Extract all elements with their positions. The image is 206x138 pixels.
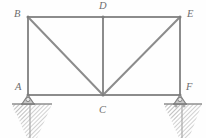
ground-hatching-right: [164, 104, 202, 138]
truss-members-group: [28, 17, 180, 95]
node-label-C: C: [99, 105, 106, 116]
member-diagonal-B-C: [28, 17, 103, 95]
node-label-A: A: [15, 82, 22, 93]
pin-support-A: [21, 95, 35, 104]
joint-E: [179, 16, 182, 19]
joint-B: [27, 16, 30, 19]
joint-C: [102, 94, 105, 97]
roller-support-F-hinge: [178, 97, 182, 101]
node-label-F: F: [186, 82, 193, 93]
ground-hatching-left: [12, 104, 52, 138]
joint-D: [102, 16, 105, 19]
node-label-B: B: [14, 9, 21, 20]
truss-diagram-figure: B D E A C F: [0, 0, 206, 138]
node-label-E: E: [187, 9, 194, 20]
pin-support-A-hinge: [26, 97, 30, 101]
member-diagonal-C-E: [103, 17, 180, 95]
truss-drawing-canvas: [0, 0, 206, 138]
node-label-D: D: [99, 1, 107, 12]
roller-support-F-wheel-left: [175, 105, 177, 107]
roller-support-F-wheel-right: [183, 105, 185, 107]
